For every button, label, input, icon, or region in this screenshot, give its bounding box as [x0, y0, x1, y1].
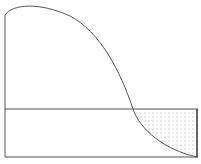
diagram-canvas: [0, 0, 201, 164]
shaded-region: [133, 109, 197, 157]
